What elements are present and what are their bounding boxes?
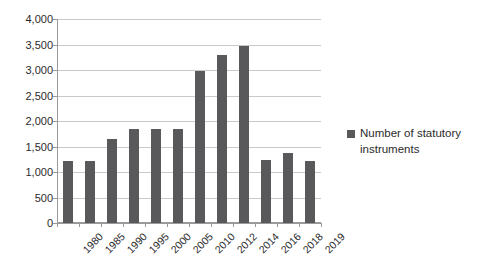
x-axis-tick-label: 1980 [81,231,105,255]
bar-slot [79,19,101,223]
x-axis-tick-mark [277,223,278,227]
x-axis-tick-label: 2018 [301,231,325,255]
bar-slot [255,19,277,223]
bar-chart: 05001,0001,5002,0002,5003,0003,5004,000 … [0,0,478,271]
x-axis-tick-label: 2012 [235,231,259,255]
x-axis-tick-mark [189,223,190,227]
x-axis-tick-mark [255,223,256,227]
legend-item-label: Number of statutory instruments [360,126,472,157]
bar-slot [57,19,79,223]
y-axis-tick-label: 0 [3,218,53,229]
x-axis-tick-label: 1985 [103,231,127,255]
y-axis-tick-label: 1,500 [3,141,53,152]
bar [63,161,73,223]
y-axis-tick-label: 2,000 [3,116,53,127]
bar [283,153,293,223]
bar [239,46,249,223]
x-axis-tick-mark [145,223,146,227]
bar [85,161,95,223]
x-axis-tick-labels: 1980198519901995200020052010201220142016… [57,223,321,271]
bar [107,139,117,223]
bar-series-number-of-statutory-instruments [57,19,321,223]
x-axis-tick-label: 2010 [213,231,237,255]
bar-slot [189,19,211,223]
bar-slot [277,19,299,223]
y-axis-tick-label: 3,000 [3,65,53,76]
x-axis-tick-label: 2005 [191,231,215,255]
x-axis-tick-label: 2019 [323,231,347,255]
x-axis-tick-label: 2000 [169,231,193,255]
bar [195,71,205,223]
bar [151,129,161,223]
x-axis-tick-mark [79,223,80,227]
bar-slot [145,19,167,223]
x-axis-tick-label: 2014 [257,231,281,255]
y-axis-tick-label: 2,500 [3,90,53,101]
x-axis-tick-label: 1995 [147,231,171,255]
y-axis-tick-label: 4,000 [3,14,53,25]
x-axis-tick-label: 1990 [125,231,149,255]
y-axis-tick-label: 3,500 [3,39,53,50]
x-axis-tick-label: 2016 [279,231,303,255]
legend: Number of statutory instruments [347,126,472,157]
bar-slot [167,19,189,223]
x-axis-tick-mark [123,223,124,227]
x-axis-tick-mark [211,223,212,227]
bar [261,160,271,223]
bar-slot [233,19,255,223]
bar-slot [299,19,321,223]
legend-swatch-icon [347,130,355,138]
bar-slot [101,19,123,223]
x-axis-tick-mark [299,223,300,227]
x-axis-tick-mark [57,223,58,227]
y-axis-tick-label: 1,000 [3,167,53,178]
bar [129,129,139,223]
x-axis-tick-mark [167,223,168,227]
bar [305,161,315,223]
bar-slot [211,19,233,223]
bar [217,55,227,223]
bar [173,129,183,223]
bar-slot [123,19,145,223]
x-axis-tick-mark [321,223,322,227]
x-axis-tick-mark [101,223,102,227]
y-axis-tick-label: 500 [3,192,53,203]
y-axis-tick-labels: 05001,0001,5002,0002,5003,0003,5004,000 [0,0,53,271]
x-axis-tick-mark [233,223,234,227]
